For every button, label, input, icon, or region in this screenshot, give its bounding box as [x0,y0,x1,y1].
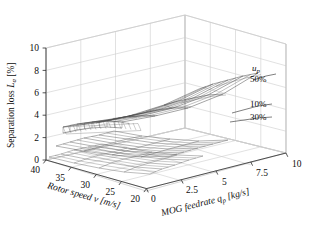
x-tick-4: 20 [131,194,141,204]
z-tick-2: 6 [34,88,39,98]
y-tick-1: 2.5 [186,185,198,195]
legend-entry-10: 10% [250,99,267,109]
y-tick-2: 5 [222,177,227,187]
legend: up 50% 10% 30% [250,63,267,122]
z-tick-1: 8 [34,66,39,76]
z-axis-title-main: Separation loss [6,90,16,148]
y-axis-title-main: MOG feedrate [159,195,216,218]
chart-canvas: 10 8 6 4 2 0 40 35 30 25 20 0 2.5 5 7.5 … [0,0,313,241]
y-tick-0: 0 [151,194,156,204]
z-axis-title: Separation loss La [%] [6,63,17,149]
legend-title: up [252,63,261,74]
legend-entry-30: 30% [250,112,267,122]
y-axis-title: MOG feedrate qp [kg/s] [159,186,251,219]
x-tick-3: 25 [106,187,116,197]
z-tick-4: 2 [34,133,39,143]
svg-text:MOG feedrate qp [kg/s]: MOG feedrate qp [kg/s] [159,186,251,219]
grid-lines-right-vertical [185,15,286,153]
y-tick-3: 7.5 [256,168,268,178]
surface-mesh-30pct [56,131,228,157]
z-tick-3: 4 [34,110,39,120]
svg-text:Separation loss La [%]: Separation loss La [%] [6,63,17,149]
x-tick-2: 30 [81,180,91,190]
legend-entry-50: 50% [250,74,267,84]
x-tick-1: 35 [56,173,66,183]
y-axis-title-unit: [kg/s] [226,186,251,201]
x-tick-0: 40 [31,165,41,175]
figure-3d-surface-plot: 10 8 6 4 2 0 40 35 30 25 20 0 2.5 5 7.5 … [0,0,313,241]
x-axis-title-unit: [m/s] [99,195,122,210]
z-axis-tick-labels: 10 8 6 4 2 0 [30,43,40,165]
y-tick-4: 10 [292,159,302,169]
z-axis-title-unit: [%] [6,63,16,77]
z-tick-5: 0 [34,155,39,165]
z-tick-0: 10 [30,43,40,53]
